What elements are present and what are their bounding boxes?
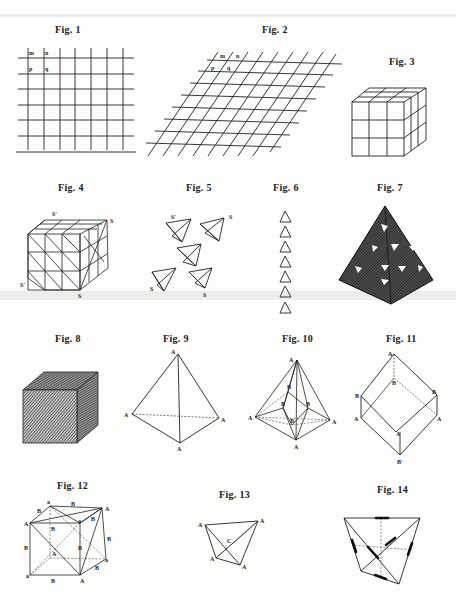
fig-14-marked-tetrahedron — [0, 0, 456, 604]
